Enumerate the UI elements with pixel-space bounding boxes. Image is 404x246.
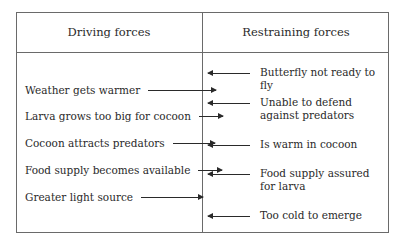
- arrow-left-icon: [208, 216, 250, 217]
- driving-force-item: Greater light source: [25, 191, 203, 203]
- driving-force-label: Weather gets warmer: [25, 84, 140, 96]
- arrow-left-icon: [208, 103, 250, 104]
- arrow-left-icon: [208, 145, 250, 146]
- restraining-force-item: Food supply assured for larva: [208, 167, 385, 193]
- restraining-force-label: Too cold to emerge: [260, 209, 385, 222]
- restraining-force-item: Butterfly not ready to fly: [208, 66, 385, 92]
- driving-force-label: Greater light source: [25, 191, 133, 203]
- driving-force-item: Food supply becomes available: [25, 164, 222, 176]
- restraining-force-label: Unable to defend against predators: [260, 96, 385, 122]
- restraining-forces-header: Restraining forces: [203, 12, 389, 52]
- driving-force-label: Food supply becomes available: [25, 164, 190, 176]
- arrow-right-icon: [141, 197, 203, 198]
- restraining-force-item: Too cold to emerge: [208, 209, 385, 222]
- driving-force-label: Cocoon attracts predators: [25, 137, 165, 149]
- driving-force-label: Larva grows too big for cocoon: [25, 110, 191, 122]
- driving-force-item: Larva grows too big for cocoon: [25, 110, 223, 122]
- driving-force-item: Weather gets warmer: [25, 84, 216, 96]
- header-divider: [16, 52, 389, 53]
- driving-force-item: Cocoon attracts predators: [25, 137, 215, 149]
- arrow-right-icon: [148, 90, 216, 91]
- restraining-force-label: Butterfly not ready to fly: [260, 66, 385, 92]
- restraining-force-item: Is warm in cocoon: [208, 138, 385, 151]
- restraining-force-item: Unable to defend against predators: [208, 96, 385, 122]
- arrow-left-icon: [208, 174, 250, 175]
- arrow-left-icon: [208, 73, 250, 74]
- restraining-force-label: Is warm in cocoon: [260, 138, 385, 151]
- restraining-force-label: Food supply assured for larva: [260, 167, 385, 193]
- driving-forces-header: Driving forces: [16, 12, 202, 52]
